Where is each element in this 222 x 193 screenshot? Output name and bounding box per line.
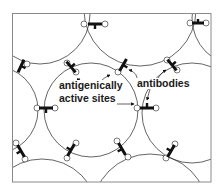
cell-lower-left xyxy=(0,159,98,193)
cell-lower-right xyxy=(92,154,208,193)
antibody-mid-left xyxy=(39,107,53,114)
label-antibodies: antibodies xyxy=(137,77,190,89)
antibody-lower-far-left xyxy=(13,144,26,159)
cell-upper-left xyxy=(0,0,90,64)
cell-upper-middle xyxy=(84,0,196,66)
antibody-top-middle xyxy=(88,23,102,30)
cell-left xyxy=(0,66,38,154)
labels: antigenically active sites antibodies xyxy=(58,77,190,104)
antibody-mid-right xyxy=(140,103,154,110)
antibody-top-right xyxy=(192,19,204,25)
cell-center xyxy=(44,63,138,157)
label-sites-line1: antigenically xyxy=(59,79,123,91)
label-sites-line2: active sites xyxy=(59,92,116,104)
antigen-antibody-diagram: antigenically active sites antibodies xyxy=(0,0,222,193)
antibody-upper-center-right xyxy=(118,58,131,73)
cell-upper-right xyxy=(192,0,222,66)
